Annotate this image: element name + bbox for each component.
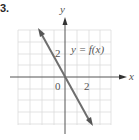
function-label: y = f(x) [70, 43, 104, 56]
y-axis-arrow-icon [63, 17, 68, 25]
y-tick-2: 2 [55, 47, 61, 59]
line-arrow-top-icon [38, 28, 45, 37]
y-axis-label: y [59, 3, 65, 15]
x-axis-label: x [128, 70, 134, 82]
graph: y x 2 0 2 y = f(x) [0, 0, 139, 140]
origin-label: 0 [55, 80, 61, 92]
x-axis-arrow-icon [119, 75, 127, 80]
x-tick-2: 2 [84, 80, 90, 92]
